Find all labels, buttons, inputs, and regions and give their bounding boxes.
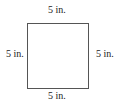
square-shape — [27, 23, 89, 89]
left-side-label: 5 in. — [6, 49, 24, 59]
right-side-label: 5 in. — [96, 49, 114, 59]
bottom-side-label: 5 in. — [48, 91, 66, 101]
top-side-label: 5 in. — [48, 5, 66, 15]
